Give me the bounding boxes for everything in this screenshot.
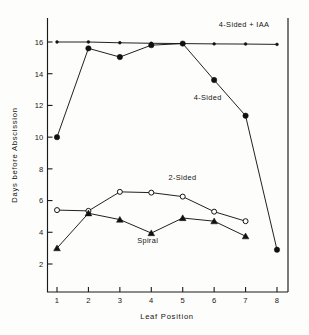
data-series — [54, 210, 249, 251]
x-tick-label: 6 — [212, 296, 216, 305]
y-tick-label: 2 — [39, 260, 43, 269]
data-point-circle — [86, 46, 91, 51]
x-tick-label: 8 — [275, 296, 279, 305]
data-point-circle — [243, 113, 248, 118]
data-point-open-circle — [55, 208, 60, 213]
data-point-small-circle — [244, 43, 247, 46]
data-point-circle — [117, 54, 122, 59]
data-series — [56, 41, 279, 46]
y-tick-label: 8 — [39, 165, 43, 174]
data-point-open-circle — [243, 219, 248, 224]
series-annotation-label: 4-Sided — [194, 93, 222, 102]
data-point-small-circle — [87, 41, 90, 44]
line-chart-plot: 24681012141612345678Leaf PositionDays be… — [0, 0, 309, 335]
x-axis-ticks: 12345678 — [55, 287, 279, 305]
series-annotation-label: Spiral — [137, 236, 158, 245]
y-tick-label: 14 — [35, 70, 44, 79]
x-tick-label: 4 — [149, 296, 153, 305]
y-tick-label: 10 — [35, 133, 44, 142]
data-point-open-circle — [180, 194, 185, 199]
chart-figure: 24681012141612345678Leaf PositionDays be… — [0, 0, 309, 335]
data-point-small-circle — [213, 42, 216, 45]
x-axis-title: Leaf Position — [140, 312, 194, 321]
y-tick-label: 12 — [35, 101, 44, 110]
y-axis-ticks: 246810121416 — [35, 38, 53, 269]
x-tick-label: 5 — [180, 296, 184, 305]
data-point-circle — [149, 42, 154, 47]
series-annotation-label: 4-Sided + IAA — [219, 20, 269, 29]
data-point-open-circle — [149, 190, 154, 195]
data-point-small-circle — [56, 41, 59, 44]
y-axis-title: Days before Abscission — [10, 107, 19, 202]
y-tick-label: 6 — [39, 196, 43, 205]
x-tick-label: 2 — [86, 296, 90, 305]
x-tick-label: 3 — [118, 296, 122, 305]
y-tick-label: 16 — [35, 38, 44, 47]
data-point-circle — [54, 134, 59, 139]
axis-frame — [48, 18, 289, 292]
x-tick-label: 1 — [55, 296, 59, 305]
data-point-open-circle — [117, 189, 122, 194]
data-point-triangle — [179, 215, 186, 221]
data-point-circle — [211, 77, 216, 82]
y-tick-label: 4 — [39, 228, 43, 237]
data-point-triangle — [242, 233, 249, 239]
data-point-open-circle — [212, 209, 217, 214]
chart-axes — [48, 18, 289, 292]
data-point-small-circle — [276, 43, 279, 46]
data-point-circle — [180, 41, 185, 46]
x-tick-label: 7 — [243, 296, 247, 305]
data-point-circle — [274, 247, 279, 252]
data-point-small-circle — [118, 41, 121, 44]
series-annotation-label: 2-Sided — [169, 173, 197, 182]
